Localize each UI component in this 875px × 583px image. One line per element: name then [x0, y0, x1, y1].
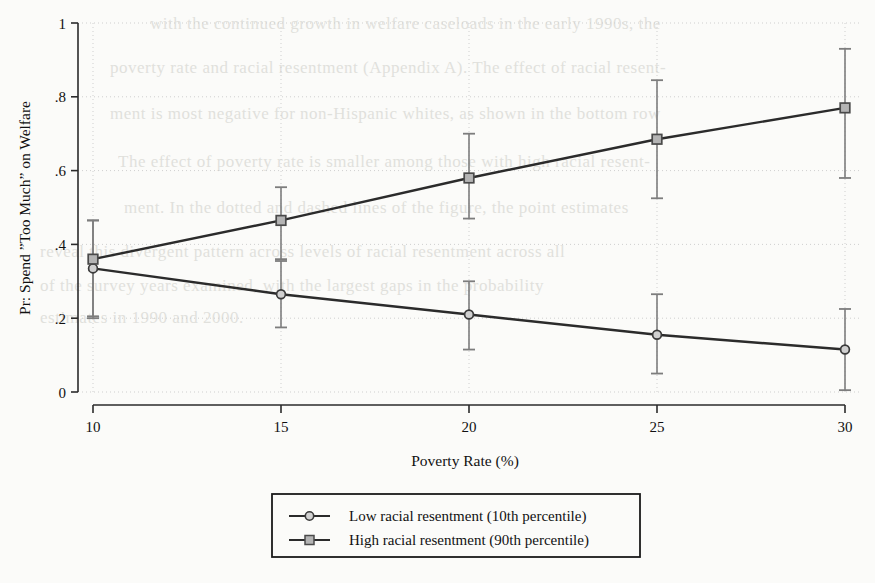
x-tick-label: 30: [838, 419, 853, 435]
y-axis: 0.2.4.6.81: [55, 16, 78, 401]
data-point-marker-circle: [89, 264, 98, 273]
x-tick-label: 20: [462, 419, 477, 435]
x-tick-label: 10: [86, 419, 101, 435]
scanned-page: with the continued growth in welfare cas…: [0, 0, 875, 583]
y-tick-label: 1: [59, 16, 67, 32]
data-point-marker-circle: [277, 290, 286, 299]
y-axis-title: Pr: Spend ”Too Much” on Welfare: [16, 101, 33, 315]
y-tick-label: .2: [55, 311, 66, 327]
y-tick-label: 0: [59, 385, 67, 401]
legend-marker-square-icon: [305, 536, 314, 545]
legend-label-high: High racial resentment (90th percentile): [349, 532, 589, 549]
data-point-marker-circle: [465, 310, 474, 319]
y-tick-label: .6: [55, 163, 67, 179]
x-axis: 1015202530: [86, 405, 853, 435]
x-axis-title: Poverty Rate (%): [411, 452, 519, 470]
legend-item-low[interactable]: Low racial resentment (10th percentile): [289, 508, 586, 525]
data-point-marker-square: [464, 173, 474, 183]
chart-legend: Low racial resentment (10th percentile) …: [272, 494, 640, 557]
legend-marker-circle-icon: [305, 512, 313, 520]
data-point-marker-square: [652, 134, 662, 144]
legend-label-low: Low racial resentment (10th percentile): [349, 508, 586, 525]
data-point-marker-square: [88, 254, 98, 264]
legend-item-high[interactable]: High racial resentment (90th percentile): [289, 532, 589, 549]
x-tick-label: 15: [274, 419, 289, 435]
data-point-marker-circle: [841, 345, 850, 354]
data-point-marker-square: [276, 216, 286, 226]
x-tick-label: 25: [650, 419, 665, 435]
y-tick-label: .4: [55, 237, 67, 253]
poverty-welfare-chart: 0.2.4.6.81 1015202530 Pr: Spend ”Too Muc…: [0, 0, 875, 583]
data-point-marker-circle: [653, 330, 662, 339]
y-tick-label: .8: [55, 89, 66, 105]
data-point-marker-square: [840, 103, 850, 113]
